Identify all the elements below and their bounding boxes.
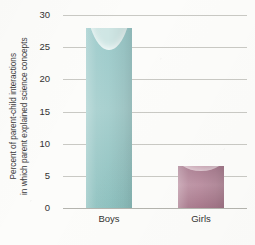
bar-boys-sheen (86, 28, 132, 208)
bar-boys (86, 28, 132, 208)
gridline-0-baseline (63, 208, 247, 209)
y-tick-label-5: 5 (26, 171, 50, 181)
plot-area: 30 25 20 15 10 5 0 (63, 15, 247, 208)
bar-girls (178, 166, 224, 208)
y-tick-label-30: 30 (26, 10, 50, 20)
y-tick-label-10: 10 (26, 139, 50, 149)
y-tick-label-20: 20 (26, 75, 50, 85)
x-tick-label-boys: Boys (98, 214, 119, 224)
x-tick-label-girls: Girls (191, 214, 211, 224)
bar-girls-sheen (178, 166, 224, 208)
y-tick-label-15: 15 (26, 107, 50, 117)
gridline-30 (63, 15, 247, 16)
bar-chart-figure: Percent of parent-child interactions in … (0, 0, 255, 245)
y-axis-title-line-1: Percent of parent-child interactions (8, 37, 19, 194)
y-tick-label-0: 0 (26, 203, 50, 213)
y-tick-label-25: 25 (26, 42, 50, 52)
